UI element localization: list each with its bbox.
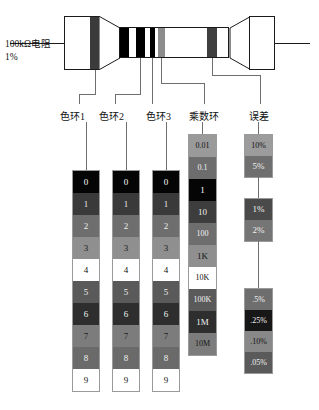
band3-swatch-7[interactable]: 7	[153, 325, 179, 347]
multiplier-swatch-1[interactable]: 1	[189, 179, 216, 201]
multiplier-swatch-10[interactable]: 10	[189, 201, 216, 223]
band1-swatch-5[interactable]: 5	[73, 281, 99, 303]
band1-swatch-8[interactable]: 8	[73, 347, 99, 369]
leader-multiplier-vert-a	[161, 58, 162, 83]
leader-band3-vert-a	[152, 58, 153, 104]
resistor-band-left-cap	[90, 17, 99, 69]
column-label-tolerance: 误差	[249, 108, 269, 123]
leader-multiplier-horiz	[161, 83, 204, 84]
leader-band1-horiz	[79, 94, 96, 95]
leader-tolerance-horiz	[212, 75, 260, 76]
band2-swatch-9[interactable]: 9	[113, 369, 139, 391]
multiplier-swatch-10K[interactable]: 10K	[189, 267, 216, 289]
multiplier-swatch-100[interactable]: 100	[189, 223, 216, 245]
band2-swatch-8[interactable]: 8	[113, 347, 139, 369]
tolerance-swatch-10[interactable]: 10%	[245, 135, 272, 156]
multiplier-swatch-10M[interactable]: 10M	[189, 333, 216, 355]
band2-swatch-2[interactable]: 2	[113, 215, 139, 237]
band3-swatch-4[interactable]: 4	[153, 259, 179, 281]
tolerance-swatch-5[interactable]: 5%	[245, 156, 272, 177]
leader-band1-vert-a	[95, 70, 96, 94]
column-multiplier-swatches[interactable]: 0.010.11101001K10K100K1M10M	[188, 134, 217, 356]
column-label-band1: 色环1	[60, 108, 85, 123]
tolerance-swatch-5[interactable]: .5%	[245, 289, 272, 310]
band1-swatch-2[interactable]: 2	[73, 215, 99, 237]
tolerance-swatch-25[interactable]: .25%	[245, 310, 272, 331]
tolerance-group-bottom[interactable]: .5%.25%.10%.05%	[244, 288, 273, 374]
resistor-band-tolerance	[207, 28, 217, 57]
band3-swatch-8[interactable]: 8	[153, 347, 179, 369]
column-label-band2: 色环2	[99, 108, 124, 123]
multiplier-swatch-1M[interactable]: 1M	[189, 311, 216, 333]
band1-swatch-9[interactable]: 9	[73, 369, 99, 391]
band2-swatch-4[interactable]: 4	[113, 259, 139, 281]
tolerance-group-top[interactable]: 10%5%	[244, 134, 273, 178]
leader-multiplier-vert-b	[204, 83, 205, 104]
drop-line-band2	[126, 122, 127, 170]
tolerance-connector-1	[258, 176, 259, 198]
column-band2-swatches[interactable]: 0123456789	[112, 170, 140, 392]
leader-tolerance-vert-a	[212, 58, 213, 75]
multiplier-swatch-01[interactable]: 0.1	[189, 157, 216, 179]
band3-swatch-3[interactable]: 3	[153, 237, 179, 259]
column-band3-swatches[interactable]: 0123456789	[152, 170, 180, 392]
resistor-value-line1: 100kΩ电阻	[5, 38, 51, 51]
resistor-right-taper	[228, 16, 251, 70]
band1-swatch-6[interactable]: 6	[73, 303, 99, 325]
resistor-color-code-diagram: 100kΩ电阻 1% 色环1 色环2 色环3 乘数环 误差 0123	[0, 0, 319, 410]
drop-line-band3	[166, 122, 167, 170]
band3-swatch-1[interactable]: 1	[153, 193, 179, 215]
drop-line-tolerance	[258, 122, 259, 134]
resistor-band-multiplier	[158, 28, 165, 57]
resistor-left-taper	[99, 16, 121, 70]
drop-line-multiplier	[202, 122, 203, 134]
band2-swatch-6[interactable]: 6	[113, 303, 139, 325]
band2-swatch-5[interactable]: 5	[113, 281, 139, 303]
resistor-value-note: 100kΩ电阻 1%	[5, 38, 51, 64]
band1-swatch-1[interactable]: 1	[73, 193, 99, 215]
band2-swatch-1[interactable]: 1	[113, 193, 139, 215]
leader-tolerance-vert-b	[260, 75, 261, 104]
band3-swatch-9[interactable]: 9	[153, 369, 179, 391]
band1-swatch-0[interactable]: 0	[73, 171, 99, 193]
band2-swatch-0[interactable]: 0	[113, 171, 139, 193]
multiplier-swatch-100K[interactable]: 100K	[189, 289, 216, 311]
resistor-right-cap	[249, 16, 275, 70]
leader-band2-horiz	[115, 94, 141, 95]
band2-swatch-3[interactable]: 3	[113, 237, 139, 259]
tolerance-group-middle[interactable]: 1%2%	[244, 198, 273, 242]
band1-swatch-7[interactable]: 7	[73, 325, 99, 347]
multiplier-swatch-1K[interactable]: 1K	[189, 245, 216, 267]
leader-band2-vert-a	[140, 58, 141, 94]
band3-swatch-5[interactable]: 5	[153, 281, 179, 303]
multiplier-swatch-001[interactable]: 0.01	[189, 135, 216, 157]
leader-band2-vert-b	[115, 94, 116, 104]
resistor-right-lead	[274, 43, 310, 44]
tolerance-connector-2	[258, 240, 259, 288]
resistor-band-2	[136, 28, 145, 57]
column-label-band3: 色环3	[146, 108, 171, 123]
band3-swatch-6[interactable]: 6	[153, 303, 179, 325]
band2-swatch-7[interactable]: 7	[113, 325, 139, 347]
tolerance-swatch-2[interactable]: 2%	[245, 220, 272, 241]
tolerance-swatch-10[interactable]: .10%	[245, 331, 272, 352]
band3-swatch-0[interactable]: 0	[153, 171, 179, 193]
band3-swatch-2[interactable]: 2	[153, 215, 179, 237]
column-band1-swatches[interactable]: 0123456789	[72, 170, 100, 392]
resistor-value-line2: 1%	[5, 51, 51, 64]
band1-swatch-3[interactable]: 3	[73, 237, 99, 259]
leader-band1-vert-b	[79, 94, 80, 104]
drop-line-band1	[86, 122, 87, 170]
column-label-multiplier: 乘数环	[189, 108, 219, 123]
tolerance-swatch-05[interactable]: .05%	[245, 352, 272, 373]
resistor-band-3	[150, 28, 155, 57]
resistor-band-1	[120, 28, 129, 57]
band1-swatch-4[interactable]: 4	[73, 259, 99, 281]
tolerance-swatch-1[interactable]: 1%	[245, 199, 272, 220]
